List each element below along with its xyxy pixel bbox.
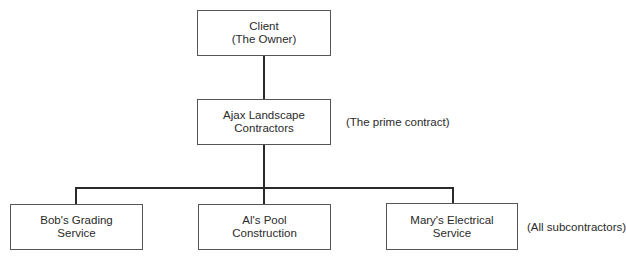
node-bob: Bob's Grading Service — [10, 204, 143, 250]
node-client: Client (The Owner) — [197, 10, 331, 56]
node-mary-line2: Service — [433, 227, 471, 240]
annotation-prime-contract: (The prime contract) — [346, 116, 450, 128]
node-al: Al's Pool Construction — [198, 204, 331, 250]
node-mary: Mary's Electrical Service — [386, 203, 518, 250]
connector-to-mary — [452, 187, 454, 204]
node-mary-line1: Mary's Electrical — [410, 214, 493, 227]
node-al-line2: Construction — [232, 227, 297, 240]
connector-ajax-down — [263, 145, 265, 189]
node-ajax: Ajax Landscape Contractors — [197, 99, 331, 145]
connector-to-al — [263, 187, 265, 204]
node-ajax-line1: Ajax Landscape — [223, 109, 305, 122]
node-client-line2: (The Owner) — [232, 33, 297, 46]
node-client-line1: Client — [249, 20, 278, 33]
node-bob-line1: Bob's Grading — [40, 214, 113, 227]
annotation-subcontractors: (All subcontractors) — [527, 221, 626, 233]
connector-client-ajax — [263, 56, 265, 99]
connector-to-bob — [75, 187, 77, 204]
node-al-line1: Al's Pool — [242, 214, 286, 227]
node-bob-line2: Service — [57, 227, 95, 240]
node-ajax-line2: Contractors — [234, 122, 293, 135]
